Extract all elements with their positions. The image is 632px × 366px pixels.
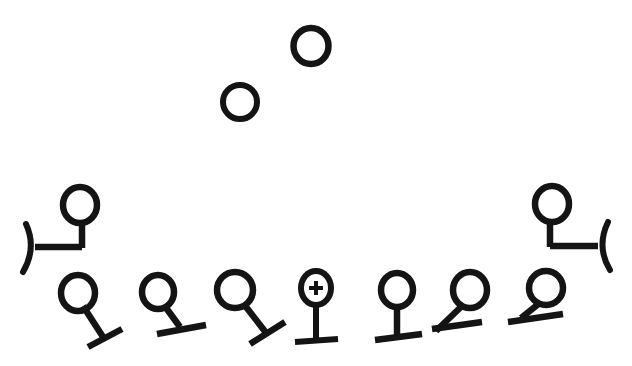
symbol-diagram (0, 0, 632, 366)
cross-bar (295, 339, 338, 342)
diagram-canvas (0, 0, 632, 366)
